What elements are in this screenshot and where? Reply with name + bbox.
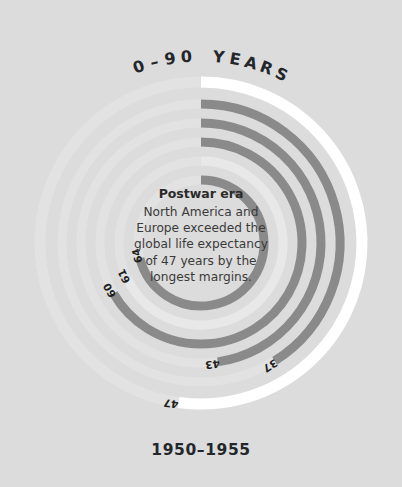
scale-label-char: 9: [163, 48, 177, 69]
scale-label-char: S: [272, 63, 291, 85]
scale-label-char: 0: [180, 47, 193, 67]
arc-bar-47: [179, 82, 362, 404]
scale-label-char: E: [228, 49, 242, 70]
scale-label-char: A: [242, 52, 260, 74]
scale-label-char: –: [148, 52, 161, 72]
radial-chart-svg: 646160433747 0–90YEARS: [0, 0, 402, 487]
arc-value-label: 47: [163, 397, 179, 411]
period-label: 1950–1955: [0, 441, 402, 459]
arc-value-label: 43: [204, 358, 220, 372]
radial-chart-canvas: 646160433747 0–90YEARS Postwar era North…: [0, 0, 402, 487]
scale-label-char: R: [257, 57, 275, 79]
scale-label-char: Y: [211, 47, 226, 67]
scale-label-char: 0: [130, 56, 147, 78]
